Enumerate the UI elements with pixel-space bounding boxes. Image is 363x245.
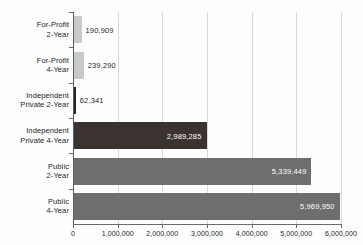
bar-value-label: 5,339,449 (272, 167, 307, 176)
bar-value-label: 239,290 (88, 61, 116, 70)
y-axis-tick (69, 189, 73, 190)
y-axis-tick (69, 153, 73, 154)
category-label-line: For-Profit (0, 56, 69, 66)
x-axis-tick-label: 5,000,000 (280, 230, 312, 237)
category-label-line: 2-Year (0, 30, 69, 40)
category-label-line: Private 2-Year (0, 100, 69, 110)
bar-value-label: 190,909 (86, 25, 114, 34)
x-axis-tick-label: 1,000,000 (102, 230, 134, 237)
bar-row: 62,341 (73, 87, 341, 114)
category-label-line: 4-Year (0, 206, 69, 216)
x-axis-tick (73, 224, 74, 228)
bar-value-label: 2,989,285 (167, 131, 202, 140)
y-axis-tick (69, 118, 73, 119)
x-axis-tick (341, 224, 342, 228)
bar-row: 5,339,449 (73, 158, 341, 185)
category-label-line: Private 4-Year (0, 136, 69, 146)
x-axis-tick (252, 224, 253, 228)
category-label-line: Independent (0, 126, 69, 136)
y-axis-line (73, 12, 74, 224)
y-axis-tick (69, 47, 73, 48)
category-label-5: Public2-Year (0, 162, 69, 181)
category-label-1: For-Profit2-Year (0, 20, 69, 39)
y-axis-tick (69, 12, 73, 13)
x-axis-tick (296, 224, 297, 228)
x-axis-tick-label: 4,000,000 (236, 230, 268, 237)
category-label-line: Public (0, 162, 69, 172)
category-label-2: For-Profit4-Year (0, 56, 69, 75)
y-axis-tick (69, 83, 73, 84)
category-label-line: 2-Year (0, 171, 69, 181)
category-label-line: Independent (0, 91, 69, 101)
x-axis-tick-label: 2,000,000 (146, 230, 178, 237)
x-axis-tick-label: 3,000,000 (191, 230, 223, 237)
x-axis-tick (162, 224, 163, 228)
x-axis-tick-label: 0 (71, 230, 75, 237)
bar-row: 2,989,285 (73, 122, 341, 149)
bar-value-label: 5,969,950 (300, 202, 335, 211)
bar-1[interactable] (73, 16, 82, 43)
category-label-4: IndependentPrivate 4-Year (0, 126, 69, 145)
bar-chart: 190,909239,29062,3412,989,2855,339,4495,… (0, 0, 363, 245)
category-label-line: 4-Year (0, 65, 69, 75)
bar-2[interactable] (73, 52, 84, 79)
category-label-line: For-Profit (0, 20, 69, 30)
x-axis-tick (207, 224, 208, 228)
bar-row: 5,969,950 (73, 193, 341, 220)
category-label-line: Public (0, 197, 69, 207)
category-label-3: IndependentPrivate 2-Year (0, 91, 69, 110)
x-axis-tick-label: 6,000,000 (325, 230, 357, 237)
x-axis-tick (118, 224, 119, 228)
bar-row: 239,290 (73, 52, 341, 79)
bar-row: 190,909 (73, 16, 341, 43)
bar-value-label: 62,341 (80, 96, 104, 105)
category-label-6: Public4-Year (0, 197, 69, 216)
gridline (341, 12, 342, 224)
